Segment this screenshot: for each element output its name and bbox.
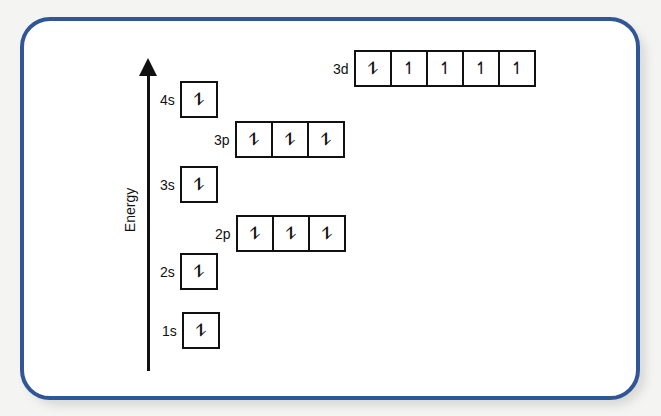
orbital-box: ⥮ xyxy=(356,52,390,85)
energy-axis-line xyxy=(147,72,150,371)
orbital-box: ↿ xyxy=(426,52,462,85)
sublevel-label: 2p xyxy=(215,226,231,242)
sublevel-label: 3d xyxy=(333,61,349,77)
sublevel-label: 2s xyxy=(160,264,175,280)
orbital-box: ⥮ xyxy=(307,123,343,156)
orbital-box: ⥮ xyxy=(272,217,308,250)
orbital-box: ⥮ xyxy=(238,217,272,250)
orbital-3d: 3d ⥮ ↿ ↿ ↿ ↿ xyxy=(333,50,536,87)
orbital-boxes: ⥮ ↿ ↿ ↿ ↿ xyxy=(354,50,536,87)
orbital-box: ⥮ xyxy=(308,217,344,250)
orbital-box: ⥮ xyxy=(237,123,271,156)
orbital-box: ⥮ xyxy=(184,314,218,347)
orbital-box: ⥮ xyxy=(182,83,216,116)
orbital-2p: 2p ⥮ ⥮ ⥮ xyxy=(215,215,346,252)
sublevel-label: 3p xyxy=(214,132,230,148)
orbital-boxes: ⥮ ⥮ ⥮ xyxy=(235,121,345,158)
sublevel-label: 4s xyxy=(160,92,175,108)
orbital-box: ↿ xyxy=(498,52,534,85)
sublevel-label: 1s xyxy=(162,323,177,339)
orbital-3p: 3p ⥮ ⥮ ⥮ xyxy=(214,121,345,158)
diagram-frame xyxy=(20,17,640,400)
energy-axis-label: Energy xyxy=(122,180,138,240)
orbital-box: ⥮ xyxy=(182,255,216,288)
orbital-boxes: ⥮ xyxy=(180,166,218,203)
orbital-boxes: ⥮ ⥮ ⥮ xyxy=(236,215,346,252)
orbital-1s: 1s ⥮ xyxy=(162,312,220,349)
orbital-4s: 4s ⥮ xyxy=(160,81,218,118)
orbital-boxes: ⥮ xyxy=(182,312,220,349)
orbital-boxes: ⥮ xyxy=(180,81,218,118)
orbital-boxes: ⥮ xyxy=(180,253,218,290)
orbital-3s: 3s ⥮ xyxy=(160,166,218,203)
orbital-box: ↿ xyxy=(462,52,498,85)
orbital-box: ⥮ xyxy=(182,168,216,201)
orbital-box: ↿ xyxy=(390,52,426,85)
orbital-2s: 2s ⥮ xyxy=(160,253,218,290)
orbital-box: ⥮ xyxy=(271,123,307,156)
arrow-up-icon xyxy=(139,58,157,76)
sublevel-label: 3s xyxy=(160,177,175,193)
